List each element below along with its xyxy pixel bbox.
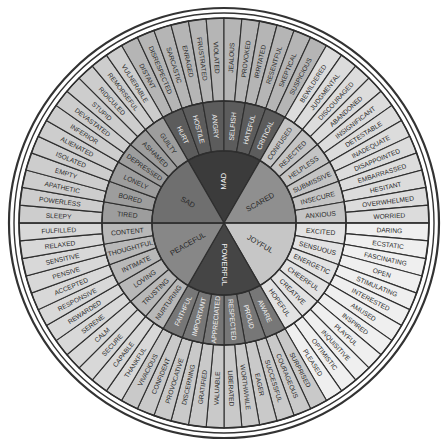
feelings-wheel-graphic: DistantDisrespectedSarcasticEnragedFrust… [0, 0, 448, 445]
outer-label-jealous: Jealous [227, 42, 235, 73]
outer-label-sleepy: Sleepy [46, 212, 73, 220]
core-label-mad: Mad [220, 172, 229, 189]
outer-label-valuable: Valuable [213, 371, 221, 405]
outer-label-violated: Violated [213, 41, 221, 74]
outer-label-daring: Daring [376, 226, 402, 234]
core-label-powerful: Powerful [220, 244, 229, 287]
feelings-wheel: DistantDisrespectedSarcasticEnragedFrust… [0, 0, 448, 445]
outer-label-worried: Worried [373, 212, 405, 220]
